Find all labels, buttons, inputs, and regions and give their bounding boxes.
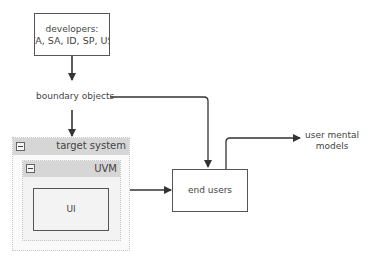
user-mental-models-line2: models — [316, 141, 349, 152]
end-users-label: end users — [188, 185, 232, 196]
target-system-header: target system — [13, 138, 129, 155]
uvm-title: UVM — [94, 163, 117, 174]
uvm-header: UVM — [23, 161, 120, 177]
boundary-objects-node[interactable]: boundary objects — [36, 91, 114, 102]
ui-node[interactable]: UI — [33, 188, 109, 231]
collapse-uvm-icon[interactable] — [26, 164, 35, 173]
target-system-title: target system — [56, 140, 126, 151]
collapse-target-system-icon[interactable] — [16, 142, 25, 151]
developers-title: developers: — [46, 24, 99, 35]
user-mental-models-line1: user mental — [305, 130, 359, 141]
target-system-container[interactable]: target system UVM UI — [12, 137, 130, 251]
user-mental-models-node[interactable]: user mental models — [305, 130, 359, 152]
uvm-container[interactable]: UVM UI — [22, 160, 121, 241]
ui-label: UI — [66, 204, 75, 215]
end-users-node[interactable]: end users — [172, 169, 248, 212]
edge-endusers-models — [226, 138, 300, 169]
developers-node[interactable]: developers: FA, SA, ID, SP, US — [34, 13, 110, 56]
developers-roles: FA, SA, ID, SP, US — [34, 35, 110, 46]
